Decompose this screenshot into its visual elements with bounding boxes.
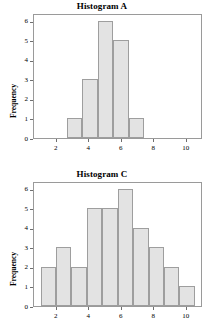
x-axis-tick [121, 307, 122, 310]
histogram-c-plot-area [33, 182, 202, 307]
histogram-bar [133, 228, 148, 306]
y-axis-tick-label: 4 [11, 224, 28, 232]
histogram-c-panel: Histogram C Frequency 0123456 246810 [0, 168, 204, 336]
x-axis-tick [186, 307, 187, 310]
x-axis-tick-label: 10 [176, 144, 196, 152]
histogram-bar [149, 247, 164, 306]
y-axis-tick [30, 22, 33, 23]
x-axis-tick-label: 10 [176, 312, 196, 320]
y-axis-tick-label: 1 [11, 115, 28, 123]
x-axis-tick [56, 307, 57, 310]
y-axis-tick [30, 248, 33, 249]
x-axis-tick-label: 4 [78, 312, 98, 320]
y-axis-tick [30, 287, 33, 288]
x-axis-tick [121, 139, 122, 142]
x-axis-tick [153, 307, 154, 310]
histogram-a-title: Histogram A [0, 1, 204, 11]
y-axis-tick-label: 5 [11, 37, 28, 45]
y-axis-tick-label: 2 [11, 95, 28, 103]
y-axis-tick [30, 80, 33, 81]
histogram-bar [41, 267, 56, 306]
x-axis-tick-label: 6 [111, 312, 131, 320]
y-axis-tick [30, 190, 33, 191]
histogram-bar [71, 267, 86, 306]
x-axis-tick-label: 4 [78, 144, 98, 152]
y-axis-tick [30, 41, 33, 42]
histogram-bar [179, 286, 194, 306]
histogram-a-plot-area [33, 14, 202, 139]
y-axis-tick-label: 3 [11, 76, 28, 84]
histogram-a-bars [34, 15, 201, 138]
y-axis-tick-label: 6 [11, 17, 28, 25]
histogram-bar [164, 267, 179, 306]
x-axis-tick [88, 307, 89, 310]
histogram-bar [118, 189, 133, 306]
y-axis-tick-label: 1 [11, 283, 28, 291]
y-axis-tick [30, 139, 33, 140]
y-axis-tick-label: 0 [11, 303, 28, 311]
y-axis-tick [30, 209, 33, 210]
histogram-bar [56, 247, 71, 306]
y-axis-tick-label: 3 [11, 244, 28, 252]
x-axis-tick [186, 139, 187, 142]
y-axis-tick-label: 0 [11, 135, 28, 143]
x-axis-tick-label: 8 [143, 144, 163, 152]
histogram-a-panel: Histogram A Frequency 0123456 246810 [0, 0, 204, 168]
x-axis-tick [88, 139, 89, 142]
y-axis-tick-label: 6 [11, 185, 28, 193]
x-axis-tick-label: 2 [46, 312, 66, 320]
y-axis-tick-label: 5 [11, 205, 28, 213]
y-axis-tick [30, 119, 33, 120]
histograms-figure: Histogram A Frequency 0123456 246810 His… [0, 0, 204, 336]
histogram-bar [82, 79, 98, 138]
y-axis-tick [30, 268, 33, 269]
y-axis-tick [30, 61, 33, 62]
x-axis-tick [56, 139, 57, 142]
histogram-bar [87, 208, 102, 306]
histogram-c-title: Histogram C [0, 169, 204, 179]
histogram-c-bars [34, 183, 201, 306]
histogram-bar [67, 118, 83, 138]
x-axis-tick-label: 2 [46, 144, 66, 152]
x-axis-tick-label: 6 [111, 144, 131, 152]
histogram-bar [98, 21, 114, 138]
x-axis-tick [153, 139, 154, 142]
x-axis-tick-label: 8 [143, 312, 163, 320]
histogram-bar [102, 208, 117, 306]
y-axis-tick [30, 307, 33, 308]
y-axis-tick [30, 100, 33, 101]
y-axis-tick-label: 4 [11, 56, 28, 64]
y-axis-tick-label: 2 [11, 263, 28, 271]
histogram-bar [113, 40, 129, 138]
histogram-bar [129, 118, 145, 138]
y-axis-tick [30, 229, 33, 230]
